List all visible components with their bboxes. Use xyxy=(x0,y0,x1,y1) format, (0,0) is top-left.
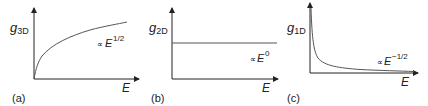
panel-c: g1D ∝ E −1/2 E (c) xyxy=(287,3,418,104)
panel-a: g3D ∝ E 1/2 E (a) xyxy=(10,8,139,104)
relation-base: E xyxy=(105,37,113,49)
panel-label: (b) xyxy=(151,92,164,104)
panel-label: (c) xyxy=(287,92,300,104)
proportional-symbol: ∝ xyxy=(377,58,383,67)
y-axis-label: g2D xyxy=(149,20,168,36)
density-of-states-figure: g3D ∝ E 1/2 E (a) g2D ∝ E 0 E (b) g1D ∝ … xyxy=(0,0,428,106)
relation-exponent: 1/2 xyxy=(113,34,125,43)
relation-base: E xyxy=(257,52,265,64)
relation-base: E xyxy=(384,55,392,67)
panel-b: g2D ∝ E 0 E (b) xyxy=(149,8,278,104)
panel-label: (a) xyxy=(12,92,25,104)
proportional-symbol: ∝ xyxy=(250,55,256,64)
relation-exponent: 0 xyxy=(265,49,270,58)
x-axis-label: E xyxy=(122,81,131,95)
x-axis-label: E xyxy=(262,81,271,95)
inverse-sqrt-curve xyxy=(311,8,414,72)
sqrt-curve xyxy=(34,22,127,79)
relation-exponent: −1/2 xyxy=(392,52,408,61)
proportional-symbol: ∝ xyxy=(97,40,103,49)
y-axis-label: g3D xyxy=(10,20,29,36)
x-axis-label: E xyxy=(401,75,410,89)
y-axis-label: g1D xyxy=(287,20,306,36)
